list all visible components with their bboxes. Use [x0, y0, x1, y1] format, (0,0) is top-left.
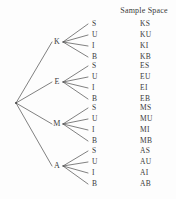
sample-space-title: Sample Space: [113, 6, 175, 15]
sample-space-au: AU: [140, 158, 160, 166]
edge-e-b: [63, 82, 88, 99]
tree-diagram: Sample Space KSKSUKUIKIBKBESESUEUIEIBEBM…: [0, 0, 176, 199]
leaf-label-m-b: B: [92, 137, 102, 145]
edge-k-s: [63, 24, 88, 42]
sample-space-mu: MU: [140, 115, 160, 123]
leaf-label-e-i: I: [92, 84, 102, 92]
sample-space-eu: EU: [140, 73, 160, 81]
leaf-label-e-s: S: [92, 62, 102, 70]
edge-root-k: [16, 42, 52, 103]
leaf-label-e-b: B: [92, 95, 102, 103]
sample-space-ab: AB: [140, 180, 160, 188]
leaf-label-m-u: U: [92, 115, 102, 123]
leaf-label-m-s: S: [92, 104, 102, 112]
edge-e-i: [63, 82, 88, 88]
edge-root-e: [16, 82, 52, 103]
sample-space-ku: KU: [140, 31, 160, 39]
sample-space-ks: KS: [140, 20, 160, 28]
leaf-label-k-b: B: [92, 53, 102, 61]
edge-m-i: [63, 124, 88, 130]
sample-space-ms: MS: [140, 104, 160, 112]
sample-space-eb: EB: [140, 95, 160, 103]
leaf-label-m-i: I: [92, 126, 102, 134]
sample-space-es: ES: [140, 62, 160, 70]
edge-root-m: [16, 103, 52, 124]
leaf-label-a-i: I: [92, 169, 102, 177]
leaf-label-k-i: I: [92, 42, 102, 50]
edge-root-a: [16, 103, 52, 166]
leaf-label-k-u: U: [92, 31, 102, 39]
edge-m-b: [63, 124, 88, 141]
sample-space-as: AS: [140, 147, 160, 155]
sample-space-ei: EI: [140, 84, 160, 92]
edge-k-u: [63, 35, 88, 42]
leaf-label-k-s: S: [92, 20, 102, 28]
sample-space-mi: MI: [140, 126, 160, 134]
node-label-a: A: [52, 162, 62, 170]
node-label-k: K: [52, 38, 62, 46]
edge-a-b: [63, 166, 88, 184]
sample-space-kb: KB: [140, 53, 160, 61]
node-label-m: M: [52, 120, 62, 128]
sample-space-ki: KI: [140, 42, 160, 50]
leaf-label-a-u: U: [92, 158, 102, 166]
leaf-label-e-u: U: [92, 73, 102, 81]
leaf-label-a-s: S: [92, 147, 102, 155]
leaf-label-a-b: B: [92, 180, 102, 188]
node-label-e: E: [52, 78, 62, 86]
sample-space-ai: AI: [140, 169, 160, 177]
sample-space-mb: MB: [140, 137, 160, 145]
edge-a-i: [63, 166, 88, 173]
